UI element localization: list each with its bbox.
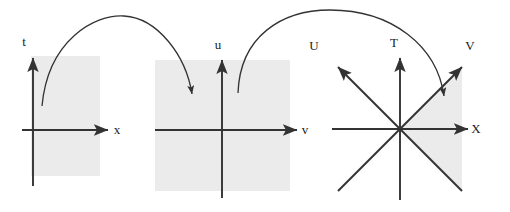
- shaded-region-tx: [31, 56, 100, 176]
- diagram-svg: t x u v U T V X: [0, 0, 510, 212]
- panel-tx: t x: [22, 34, 121, 186]
- axis-label-U: U: [309, 38, 319, 53]
- panel-star: U T V X: [309, 35, 481, 200]
- axis-label-x: x: [114, 122, 121, 137]
- axis-label-t: t: [22, 34, 26, 49]
- figure-canvas: t x u v U T V X: [0, 0, 510, 212]
- axis-label-T: T: [390, 35, 398, 50]
- axis-label-v: v: [302, 122, 309, 137]
- axis-label-X: X: [471, 121, 481, 136]
- axis-label-u: u: [215, 37, 222, 52]
- ray-U: [338, 67, 400, 129]
- panel-uv: u v: [155, 37, 309, 198]
- ray-V-negative: [338, 129, 400, 191]
- axis-label-V: V: [465, 38, 475, 53]
